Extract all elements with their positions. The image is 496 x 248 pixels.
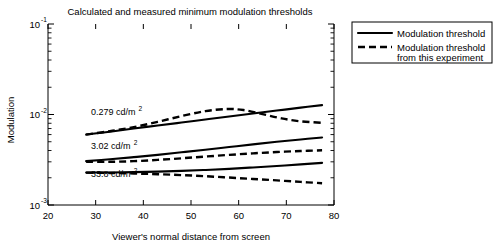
x-tick-label: 30 bbox=[90, 210, 101, 221]
y-tick-label-exponent: -1 bbox=[41, 16, 47, 23]
x-tick-label: 70 bbox=[281, 210, 292, 221]
x-tick-label: 20 bbox=[43, 210, 54, 221]
y-tick-label-exponent: -3 bbox=[41, 197, 47, 204]
y-tick-label-mantissa: 10 bbox=[29, 109, 40, 120]
annotation-superscript: 2 bbox=[134, 139, 138, 146]
y-tick-label-mantissa: 10 bbox=[29, 200, 40, 211]
chart-title: Calculated and measured minimum modulati… bbox=[67, 6, 312, 17]
annotation-superscript: 2 bbox=[134, 167, 138, 174]
legend-label-measured-line2: from this experiment bbox=[397, 52, 483, 63]
legend-label-calculated: Modulation threshold bbox=[397, 28, 485, 39]
annotation-text: 0.279 cd/m bbox=[91, 107, 136, 117]
curve-annotation: 0.279 cd/m2 bbox=[91, 105, 142, 117]
y-tick-label-mantissa: 10 bbox=[29, 19, 40, 30]
x-tick-label: 60 bbox=[233, 210, 244, 221]
x-axis-label: Viewer's normal distance from screen bbox=[112, 231, 270, 242]
x-tick-label: 40 bbox=[138, 210, 149, 221]
figure-container: Calculated and measured minimum modulati… bbox=[0, 0, 496, 248]
x-tick-label: 50 bbox=[186, 210, 197, 221]
legend-label-measured: Modulation threshold bbox=[397, 42, 485, 53]
y-tick-label-exponent: -2 bbox=[41, 107, 47, 114]
annotation-superscript: 2 bbox=[138, 105, 142, 112]
modulation-threshold-chart: Calculated and measured minimum modulati… bbox=[0, 0, 496, 248]
annotation-text: 3.02 cd/m bbox=[91, 141, 131, 151]
chart-legend: Modulation threshold Modulation threshol… bbox=[352, 22, 492, 63]
annotation-text: 33.8 cd/m bbox=[91, 169, 131, 179]
x-tick-label: 80 bbox=[329, 210, 340, 221]
y-axis-label: Modulation bbox=[5, 97, 16, 143]
